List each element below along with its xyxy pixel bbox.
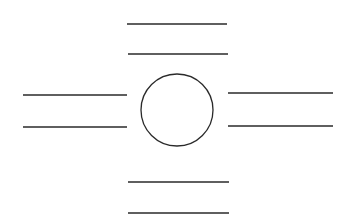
center-circle xyxy=(141,74,213,146)
line-pair-top xyxy=(127,24,228,54)
line-pair-left xyxy=(23,95,127,127)
line-pair-right xyxy=(228,93,333,126)
diagram-canvas xyxy=(0,0,351,221)
line-pair-bottom xyxy=(128,182,229,213)
line-groups xyxy=(23,24,333,213)
